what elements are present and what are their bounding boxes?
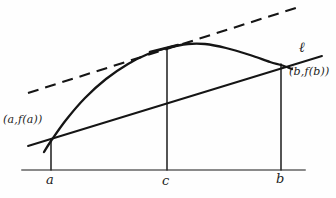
tangency-point-mark xyxy=(150,45,178,52)
function-curve xyxy=(44,44,292,153)
label-point-a: (a,f(a)) xyxy=(3,114,42,125)
axis-tick-label-c: c xyxy=(162,174,169,187)
diagram-canvas xyxy=(0,0,336,198)
axis-tick-label-b: b xyxy=(276,172,285,185)
secant-line xyxy=(28,56,322,146)
mvt-diagram: (a,f(a)) (b,f(b)) ℓ a c b xyxy=(0,0,336,198)
axis-tick-label-a: a xyxy=(46,173,54,186)
label-point-b: (b,f(b)) xyxy=(289,66,329,77)
label-secant-line: ℓ xyxy=(299,40,305,54)
